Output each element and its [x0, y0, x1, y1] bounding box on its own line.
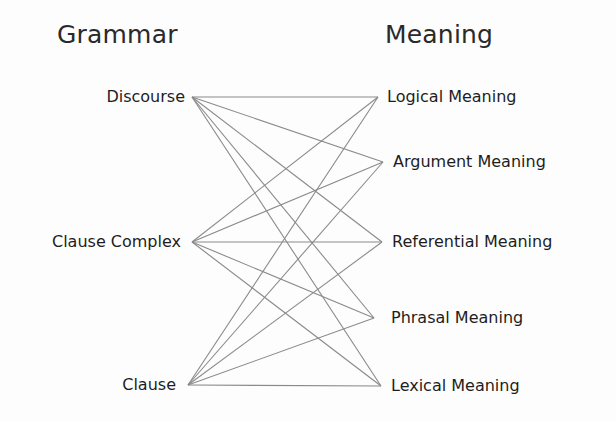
connection-clause-argument [188, 162, 383, 385]
grammar-node-discourse: Discourse [106, 87, 185, 107]
meaning-node-phrasal: Phrasal Meaning [391, 308, 523, 328]
connection-discourse-argument [192, 97, 383, 162]
grammar-node-clause-complex: Clause Complex [52, 232, 181, 252]
connection-clause_complex-argument [192, 162, 383, 242]
connection-clause-logical [188, 97, 378, 385]
connection-clause_complex-phrasal [192, 242, 374, 318]
connection-discourse-phrasal [192, 97, 374, 318]
grammar-node-clause: Clause [122, 375, 176, 395]
meaning-node-argument: Argument Meaning [393, 152, 546, 172]
meaning-node-referential: Referential Meaning [392, 232, 552, 252]
connection-clause-phrasal [188, 318, 374, 385]
connection-clause-referential [188, 242, 382, 385]
meaning-node-logical: Logical Meaning [387, 87, 517, 107]
connection-clause-lexical [188, 385, 381, 386]
meaning-node-lexical: Lexical Meaning [391, 376, 520, 396]
connection-lines [0, 0, 616, 421]
